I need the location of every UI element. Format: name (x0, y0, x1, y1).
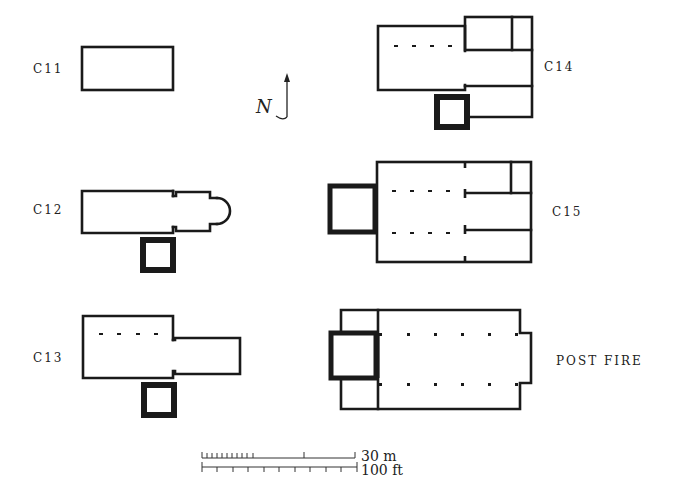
plans-canvas (0, 0, 679, 504)
scale-metric-label: 30 m (361, 449, 397, 463)
plan-c12 (82, 191, 230, 270)
north-arrow-icon (276, 73, 290, 119)
plan-post-fire (331, 310, 531, 409)
plan-c14 (378, 17, 532, 127)
label-c12: C12 (33, 203, 63, 217)
label-c11: C11 (33, 62, 63, 76)
plan-c15 (330, 162, 531, 262)
plan-c11 (82, 47, 173, 90)
label-c14: C14 (544, 60, 574, 74)
scale-bar (202, 452, 357, 472)
scale-imperial-label: 100 ft (361, 463, 403, 477)
north-label: N (256, 96, 272, 117)
label-c13: C13 (33, 351, 63, 365)
floor-plan-diagram: C11 C12 C13 C14 C15 POST FIRE N 30 m 100… (0, 0, 679, 504)
plan-c13 (83, 316, 240, 415)
label-post-fire: POST FIRE (556, 354, 643, 368)
label-c15: C15 (552, 205, 582, 219)
